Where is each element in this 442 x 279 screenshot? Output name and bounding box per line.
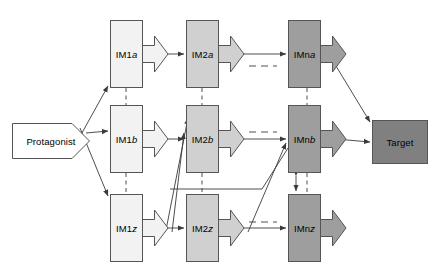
node-im1a[interactable]: IM1a [110,20,143,88]
node-im1b-label: IM1b [116,134,138,145]
node-imna-label-suffix: a [310,49,315,60]
node-imnb[interactable]: IMnb [288,105,321,173]
node-im2a[interactable]: IM2a [186,20,219,88]
node-im1b-label-suffix: b [132,134,137,145]
node-protagonist-label: Protagonist [26,136,75,147]
node-im1a-label-suffix: a [132,49,137,60]
block-arrow-im1b-shape [141,119,169,159]
node-im2z[interactable]: IM2z [186,194,219,262]
node-imnb-label: IMnb [294,134,316,145]
node-imnb-label-suffix: b [310,134,315,145]
node-imnz[interactable]: IMnz [288,194,321,262]
node-im1z-label: IM1z [116,223,137,234]
node-imnz-label: IMnz [294,223,315,234]
node-im1b[interactable]: IM1b [110,105,143,173]
node-imnz-label-suffix: z [310,223,315,234]
node-im2b-label: IM2b [192,134,214,145]
edge-im2z-to-imnb [248,143,286,232]
block-arrow-im1z [141,208,169,248]
block-arrow-imnb-shape [319,119,347,159]
node-protagonist[interactable]: Protagonist [12,123,90,159]
block-arrow-im2z [217,208,245,248]
edge-imna-to-target [336,66,370,122]
node-imna-label: IMna [294,49,316,60]
node-im2z-label: IM2z [192,223,213,234]
node-im1z[interactable]: IM1z [110,194,143,262]
node-im2b[interactable]: IM2b [186,105,219,173]
block-arrow-imnz [319,208,347,248]
block-arrow-imna [319,34,347,74]
block-arrow-im2b [217,119,245,159]
node-target[interactable]: Target [372,120,428,164]
edge-im1z-to-im2b-alt [166,118,188,230]
node-im2a-label-suffix: a [208,49,213,60]
node-im2z-label-suffix: z [208,223,213,234]
diagram-canvas: Protagonist Target IM1aIM2aIMnaIM1bIM2bI… [0,0,442,279]
block-arrow-imnz-shape [319,208,347,248]
block-arrow-imna-shape [319,34,347,74]
node-im2a-label: IM2a [192,49,214,60]
node-im2b-label-suffix: b [208,134,213,145]
node-target-label: Target [386,137,413,148]
block-arrow-imnb [319,119,347,159]
block-arrow-im2a [217,34,245,74]
node-im1a-label: IM1a [116,49,138,60]
block-arrow-im1a-shape [141,34,169,74]
block-arrow-im1z-shape [141,208,169,248]
node-im1z-label-suffix: z [132,223,137,234]
block-arrow-im1b [141,119,169,159]
block-arrow-im2z-shape [217,208,245,248]
block-arrow-im2b-shape [217,119,245,159]
block-arrow-im2a-shape [217,34,245,74]
node-imna[interactable]: IMna [288,20,321,88]
block-arrow-im1a [141,34,169,74]
